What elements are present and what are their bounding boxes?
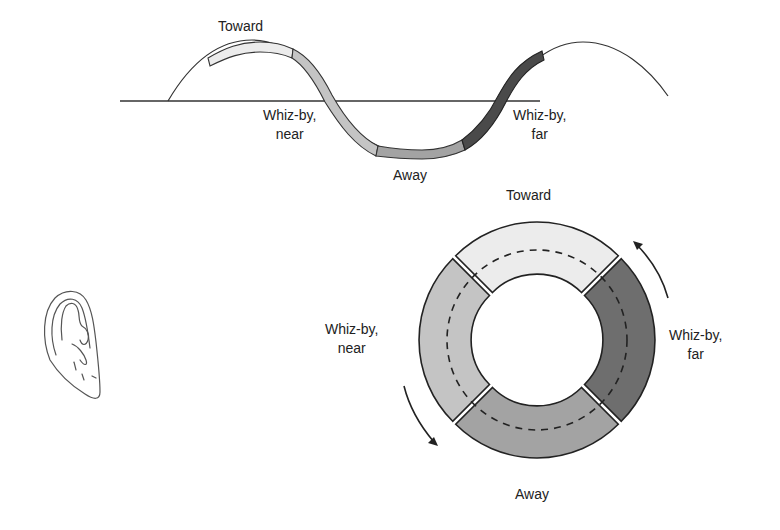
ring-segment-toward: [456, 222, 619, 292]
ring-segment-whizby-near: [419, 259, 489, 422]
ear-icon: [45, 291, 100, 398]
ring-segment-whizby-far: [585, 259, 655, 422]
ring-label-whizby-far: Whiz-by, far: [669, 326, 722, 364]
ring-label-whizby-near: Whiz-by, near: [325, 320, 378, 358]
ring-label-away: Away: [515, 485, 549, 504]
ring-diagram: [419, 222, 655, 458]
wave-label-away: Away: [393, 166, 427, 185]
ring-dashed-path: [447, 250, 627, 430]
ring-segment-away: [456, 388, 619, 458]
doppler-diagram: [0, 0, 780, 530]
wave-label-toward: Toward: [218, 17, 263, 36]
wave-label-whizby-near: Whiz-by, near: [263, 106, 316, 144]
ring-label-toward: Toward: [506, 186, 551, 205]
wave-segment-away: [376, 140, 465, 159]
wave-label-whizby-far: Whiz-by, far: [513, 106, 566, 144]
wave-segment-toward: [208, 42, 293, 66]
wave-curve: [168, 40, 668, 155]
